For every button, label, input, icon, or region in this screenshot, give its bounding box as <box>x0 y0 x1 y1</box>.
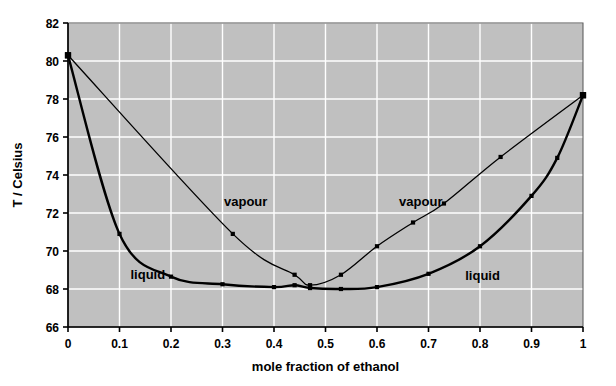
data-point-liquid <box>426 272 430 276</box>
data-point-liquid <box>272 285 276 289</box>
x-axis-tick-label: 0.6 <box>369 337 386 351</box>
data-point-vapour <box>442 201 446 205</box>
phase-diagram-chart: 66687072747678808200.10.20.30.40.50.60.7… <box>0 0 616 386</box>
vapour-label-left: vapour <box>224 194 267 209</box>
x-axis-tick-label: 0.4 <box>266 337 283 351</box>
data-point-vapour <box>231 232 235 236</box>
data-point-vapour <box>499 155 503 159</box>
y-axis-tick-label: 68 <box>46 283 60 297</box>
data-point-liquid <box>555 156 559 160</box>
data-point-liquid <box>220 282 224 286</box>
data-point-vapour <box>411 220 415 224</box>
data-point-liquid <box>117 232 121 236</box>
x-axis-title: mole fraction of ethanol <box>252 359 399 374</box>
data-point-liquid <box>169 275 173 279</box>
x-axis-tick-label: 0.7 <box>420 337 437 351</box>
data-point-vapour <box>308 283 312 287</box>
x-axis-tick-label: 0.2 <box>163 337 180 351</box>
y-axis-tick-label: 82 <box>46 17 60 31</box>
y-axis-tick-label: 80 <box>46 55 60 69</box>
x-axis-tick-label: 0 <box>65 337 72 351</box>
data-point-liquid <box>375 285 379 289</box>
x-axis-tick-label: 0.8 <box>472 337 489 351</box>
x-axis-tick-label: 0.1 <box>111 337 128 351</box>
y-axis-tick-label: 66 <box>46 321 60 335</box>
data-point-vapour <box>293 273 297 277</box>
y-axis-tick-label: 72 <box>46 207 60 221</box>
x-axis-tick-label: 0.9 <box>523 337 540 351</box>
x-axis-tick-label: 1 <box>580 337 587 351</box>
y-axis-tick-label: 74 <box>46 169 60 183</box>
data-point-vapour <box>339 273 343 277</box>
chart-canvas: 66687072747678808200.10.20.30.40.50.60.7… <box>0 0 616 386</box>
data-point-vapour <box>375 244 379 248</box>
data-point-liquid <box>529 194 533 198</box>
x-axis-tick-label: 0.5 <box>317 337 334 351</box>
y-axis-tick-label: 76 <box>46 131 60 145</box>
data-point-liquid <box>478 244 482 248</box>
liquid-label-left: liquid <box>130 267 165 282</box>
y-axis-tick-label: 70 <box>46 245 60 259</box>
data-point-liquid <box>339 287 343 291</box>
liquid-label-right: liquid <box>465 268 500 283</box>
y-axis-tick-label: 78 <box>46 93 60 107</box>
data-point-liquid <box>293 283 297 287</box>
data-point-vapour <box>580 92 586 98</box>
y-axis-title: T / Celsius <box>10 142 25 207</box>
vapour-label-right: vapour <box>399 194 442 209</box>
x-axis-tick-label: 0.3 <box>214 337 231 351</box>
